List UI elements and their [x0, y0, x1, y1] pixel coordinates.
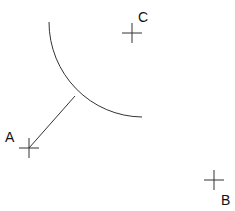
- point-b-label: B: [221, 192, 230, 208]
- point-c: C: [122, 9, 148, 43]
- segment-a-to-arc: [29, 96, 75, 148]
- point-c-label: C: [138, 9, 148, 25]
- point-a: A: [5, 129, 39, 158]
- point-b: B: [204, 170, 230, 208]
- arc: [49, 22, 142, 117]
- point-a-label: A: [5, 129, 15, 145]
- geometry-diagram: A B C: [0, 0, 235, 211]
